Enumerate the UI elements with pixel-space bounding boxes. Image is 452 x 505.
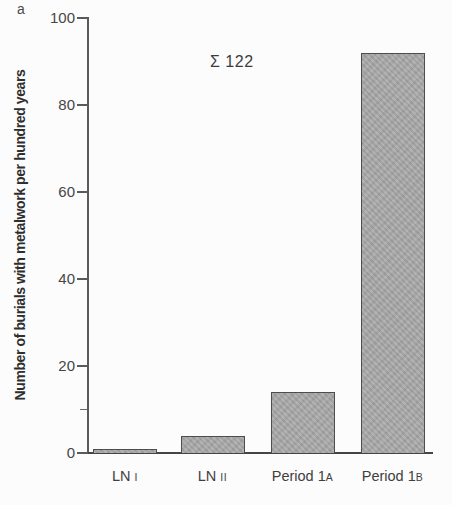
bar-ln-ii — [181, 436, 245, 453]
y-minor-tick-10 — [80, 409, 87, 410]
y-tick-label: 100 — [28, 10, 75, 26]
bar-ln-i — [93, 449, 157, 453]
y-tick-100 — [77, 17, 88, 19]
x-label-main: LN — [198, 468, 221, 484]
x-label-ln-ii: LN II — [163, 468, 263, 484]
x-label-main: LN — [112, 468, 135, 484]
x-label-period-1b: Period 1B — [343, 468, 443, 484]
x-label-period-1a: Period 1A — [253, 468, 353, 484]
x-label-suffix: A — [326, 471, 334, 483]
y-tick-label: 60 — [28, 184, 75, 200]
bar-chart-figure: a Number of burials with metalwork per h… — [0, 0, 452, 505]
x-label-main: Period 1 — [272, 468, 326, 484]
x-label-suffix: II — [220, 471, 227, 483]
x-label-ln-i: LN I — [75, 468, 175, 484]
panel-label: a — [17, 1, 25, 17]
y-tick-label: 40 — [28, 271, 75, 287]
y-tick-0 — [77, 452, 88, 454]
x-label-main: Period 1 — [362, 468, 416, 484]
y-tick-label: 0 — [28, 445, 75, 461]
y-axis-title: Number of burials with metalwork per hun… — [12, 25, 30, 445]
y-tick-20 — [77, 365, 88, 367]
x-label-suffix: I — [135, 471, 138, 483]
bar-period-1b — [361, 53, 425, 453]
bar-period-1a — [271, 392, 335, 453]
y-axis-line — [87, 17, 89, 454]
y-tick-label: 20 — [28, 358, 75, 374]
y-tick-80 — [77, 104, 88, 106]
y-tick-label: 80 — [28, 97, 75, 113]
y-tick-60 — [77, 191, 88, 193]
y-tick-40 — [77, 278, 88, 280]
sum-annotation: Σ 122 — [210, 53, 254, 71]
x-label-suffix: B — [416, 471, 424, 483]
